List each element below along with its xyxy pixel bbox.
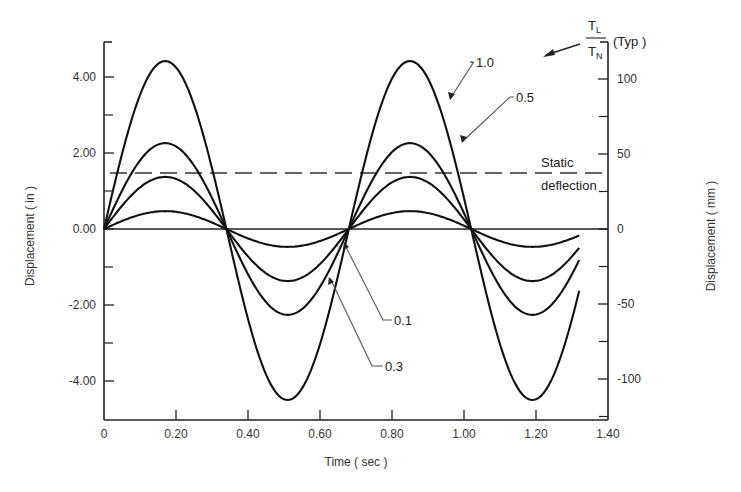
svg-text:TL: TL: [588, 18, 601, 35]
y-tick-label: 2.00: [73, 146, 97, 160]
curve-1.0: [104, 61, 579, 400]
x-axis-title: Time ( sec ): [325, 455, 388, 469]
leader-0.5: [462, 97, 514, 142]
leader-1.0: [450, 62, 474, 99]
y-right-tick-label: -50: [617, 297, 635, 311]
static-label-line1: Static: [541, 155, 574, 170]
y-tick-label: 4.00: [73, 70, 97, 84]
curves: [104, 61, 579, 400]
ticks: [104, 77, 608, 420]
curve-label-0.1: 0.1: [394, 313, 412, 328]
x-tick-label: 1.20: [524, 427, 548, 441]
curve-label-0.5: 0.5: [516, 90, 534, 105]
ratio-arrowhead: [543, 49, 555, 57]
y-axis-title-left: Displacement ( in ): [23, 186, 37, 286]
curve-label-0.3: 0.3: [385, 359, 403, 374]
x-tick-label: 1.40: [596, 427, 620, 441]
y-right-tick-label: -100: [617, 372, 641, 386]
y-right-tick-label: 0: [617, 222, 624, 236]
x-tick-label: 0.40: [236, 427, 260, 441]
tick-labels: 00.200.400.600.801.001.201.404.002.000.0…: [69, 70, 642, 441]
svg-text:(Typ ): (Typ ): [613, 34, 646, 49]
y-tick-label: -2.00: [69, 298, 97, 312]
curve-label-1.0: 1.0: [476, 55, 494, 70]
svg-text:TN: TN: [588, 44, 602, 61]
y-right-tick-label: 50: [617, 147, 631, 161]
displacement-chart: 00.200.400.600.801.001.201.404.002.000.0…: [0, 0, 741, 492]
static-label-line2: deflection: [541, 178, 597, 193]
y-tick-label: -4.00: [69, 374, 97, 388]
leader-0.3: [331, 280, 383, 366]
y-right-tick-label: 100: [617, 72, 637, 86]
y-axis-title-right: Displacement ( mm ): [704, 181, 718, 292]
leader-0.1: [345, 245, 392, 320]
leaders: [331, 62, 514, 366]
y-tick-label: 0.00: [73, 222, 97, 236]
x-tick-label: 0: [101, 427, 108, 441]
x-tick-label: 0.60: [308, 427, 332, 441]
x-tick-label: 0.80: [380, 427, 404, 441]
x-tick-label: 0.20: [164, 427, 188, 441]
arrowheads: [328, 92, 467, 285]
x-tick-label: 1.00: [452, 427, 476, 441]
ratio-annotation: TL TN (Typ ): [586, 18, 646, 61]
